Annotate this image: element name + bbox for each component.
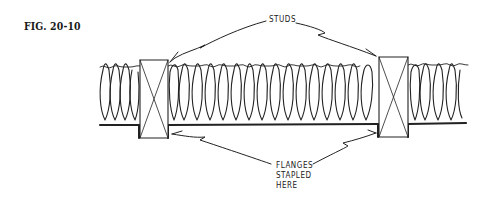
insulation-diagram [0,0,486,199]
left-stud [140,60,168,138]
insulation-loops-left [100,64,139,120]
insulation-loops-right [410,64,462,120]
right-stud [379,57,408,137]
insulation-loops-middle [169,64,372,120]
studs-leader-lines [170,21,376,62]
flanges-leader-lines [172,130,376,164]
